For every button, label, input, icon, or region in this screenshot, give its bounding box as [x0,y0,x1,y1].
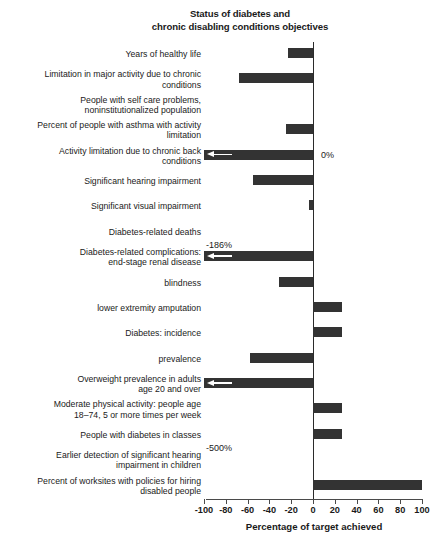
x-axis-tick [313,499,314,504]
category-label: Significant visual impairment [0,201,201,211]
arrow-shaft-icon [214,382,232,384]
category-label-line: Years of healthy life [0,49,201,59]
category-label-line: Limitation in major activity due to chro… [0,69,201,79]
arrow-head-icon [207,151,214,157]
category-label: Years of healthy life [0,49,201,59]
bar-row [206,67,422,90]
x-axis-tick [204,499,205,504]
category-label-line: Moderate physical activity: people age [0,399,201,409]
category-label: Diabetes-related deaths [0,227,201,237]
arrow-shaft-icon [214,154,232,156]
bar-row: 0% [206,448,422,471]
category-label: People with self care problems,noninstit… [0,95,201,115]
bar [313,480,422,490]
category-label-line: lower extremity amputation [0,303,201,313]
x-axis-tick-label: -60 [241,505,254,515]
x-axis-tick [378,499,379,504]
category-label: blindness [0,278,201,288]
category-label-line: Activity limitation due to chronic back [0,146,201,156]
bar-row [206,474,422,497]
category-label-line: Significant visual impairment [0,201,201,211]
x-axis-tick [226,499,227,504]
bar-row [206,118,422,141]
category-label-line: Significant hearing impairment [0,176,201,186]
category-label-line: end-stage renal disease [0,257,201,267]
chart-title-line-2: chronic disabling conditions objectives [105,21,375,34]
offscale-arrow-icon [207,380,233,387]
offscale-arrow-icon [207,151,233,158]
bar [286,124,313,134]
bar-row [206,423,422,446]
x-axis-tick-label: 100 [414,505,429,515]
bar [313,403,342,413]
arrow-head-icon [207,380,214,386]
x-axis-title: Percentage of target achieved [206,521,422,532]
bar-row: 0% [206,93,422,116]
category-label: Moderate physical activity: people age18… [0,399,201,419]
category-label-line: Diabetes-related deaths [0,227,201,237]
bar-row [206,321,422,344]
bar-row: -186% [206,144,422,167]
bar [250,353,313,363]
x-axis-tick-label: 60 [373,505,383,515]
x-axis-tick [400,499,401,504]
category-label: Percent of worksites with policies for h… [0,476,201,496]
category-label: prevalence [0,354,201,364]
x-axis-tick [422,499,423,504]
x-axis-tick [269,499,270,504]
bar-row: -500% [206,245,422,268]
bar-row [206,296,422,319]
category-label: Significant hearing impairment [0,176,201,186]
bar [239,73,313,83]
category-label: People with diabetes in classes [0,430,201,440]
offscale-arrow-icon [207,253,233,260]
bar [309,200,313,210]
x-axis-tick-label: 80 [395,505,405,515]
x-axis-tick-label: -20 [285,505,298,515]
bar [288,48,313,58]
category-label-line: conditions [0,156,201,166]
category-axis-labels: Years of healthy lifeLimitation in major… [0,42,203,499]
category-label-line: Earlier detection of significant hearing [0,450,201,460]
category-label-line: Percent of people with asthma with activ… [0,120,201,130]
x-axis-tick [335,499,336,504]
bar-row [206,169,422,192]
x-axis-tick [357,499,358,504]
plot-area: 0%-186%0%-500%-133%0% [206,42,422,499]
category-label-line: prevalence [0,354,201,364]
x-axis-tick [291,499,292,504]
category-label-line: limitation [0,130,201,140]
category-label-line: impairment in children [0,460,201,470]
category-label-line: Diabetes-related complications: [0,247,201,257]
bar-row [206,42,422,65]
category-label-line: 18–74, 5 or more times per week [0,410,201,420]
category-label-line: Diabetes: incidence [0,328,201,338]
bar [313,302,342,312]
category-label-line: People with diabetes in classes [0,430,201,440]
bar-row [206,271,422,294]
x-axis-tick-label: 0 [310,505,315,515]
category-label-line: age 20 and over [0,384,201,394]
x-axis-tick-label: 40 [351,505,361,515]
bar [279,277,313,287]
category-label-line: Overweight prevalence in adults [0,374,201,384]
bar-row [206,347,422,370]
category-label: Diabetes-related complications:end-stage… [0,247,201,267]
x-axis-tick-label: -80 [219,505,232,515]
bar-row [206,194,422,217]
category-label: Earlier detection of significant hearing… [0,450,201,470]
x-axis-tick-label: -100 [195,505,213,515]
category-label: Limitation in major activity due to chro… [0,69,201,89]
bar [313,429,342,439]
chart-title-line-1: Status of diabetes and [105,8,375,21]
category-label: Percent of people with asthma with activ… [0,120,201,140]
x-axis-tick-label: -40 [263,505,276,515]
category-label: Overweight prevalence in adultsage 20 an… [0,374,201,394]
category-label-line: People with self care problems, [0,95,201,105]
category-label-line: conditions [0,80,201,90]
bar-row: 0% [206,220,422,243]
bar [253,175,313,185]
bar-row: -133% [206,372,422,395]
bar-row [206,397,422,420]
category-label: Activity limitation due to chronic backc… [0,146,201,166]
